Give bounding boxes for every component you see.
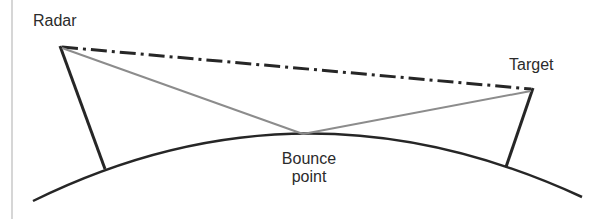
incident-path-line xyxy=(62,48,303,134)
radar-multipath-diagram xyxy=(0,0,606,219)
bounce-point-label: Bounce point xyxy=(272,150,346,186)
radar-tower xyxy=(60,46,105,169)
bounce-label-line2: point xyxy=(272,168,346,186)
bounce-label-line1: Bounce xyxy=(272,150,346,168)
target-tower xyxy=(506,88,533,167)
direct-path-line xyxy=(62,47,531,89)
radar-label: Radar xyxy=(33,12,77,30)
reflected-path-line xyxy=(303,91,531,134)
target-label: Target xyxy=(509,56,553,74)
